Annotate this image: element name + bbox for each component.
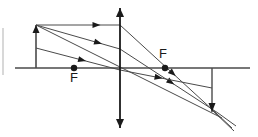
- focal-point-dot-right: [162, 65, 168, 71]
- ray-group: [36, 22, 236, 131]
- optics-diagram-canvas: F F: [0, 0, 258, 137]
- focal-ray-incident-direction-arrowhead: [93, 39, 102, 47]
- convergence-overshoot-c: [212, 110, 234, 131]
- ray-diagram-figure: F F: [0, 0, 258, 137]
- object-arrow: [33, 25, 40, 68]
- image-arrow: [209, 68, 216, 112]
- lower-ray-refracted-direction-arrowhead: [154, 74, 163, 81]
- parallel-ray-incident-direction-arrowhead: [92, 22, 100, 28]
- lower-ray-refracted: [120, 70, 212, 88]
- focal-ray-incident: [36, 25, 120, 49]
- lower-ray-incident-direction-arrowhead: [78, 56, 87, 64]
- focal-point-label-left: F: [70, 70, 78, 85]
- convergence-overshoot-a: [216, 113, 232, 128]
- focal-point-label-right: F: [159, 46, 167, 61]
- lower-ray-incident: [36, 48, 120, 70]
- lens-top-arrowhead: [116, 8, 124, 17]
- lens-bottom-arrowhead: [116, 119, 124, 128]
